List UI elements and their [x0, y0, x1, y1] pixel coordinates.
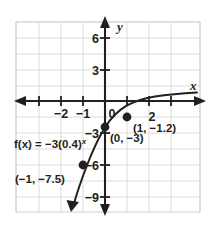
function-equation-exponent: x: [81, 137, 87, 146]
data-point-0: [101, 123, 110, 132]
data-point-1: [123, 113, 132, 122]
x-tick-label-neg2: −2: [54, 107, 68, 121]
exponential-function-graph: y x 6 3 −3 −6 −9 −2 −1 0 2 (−1, −7.5) (0…: [0, 0, 216, 227]
data-point-neg1: [79, 161, 88, 170]
y-tick-label-3: 3: [92, 64, 99, 78]
function-equation-text: f(x) = −3(0.4): [14, 138, 82, 150]
y-tick-label-neg3: −3: [85, 127, 99, 141]
point-label-neg1: (−1, −7.5): [15, 173, 65, 185]
coordinate-plane-svg: y x 6 3 −3 −6 −9 −2 −1 0 2 (−1, −7.5) (0…: [0, 0, 216, 227]
function-equation-label: f(x) = −3(0.4)x: [14, 137, 87, 150]
x-axis-label: x: [189, 78, 197, 93]
point-label-1: (1, −1.2): [133, 122, 176, 134]
y-tick-label-neg9: −9: [85, 191, 99, 205]
y-tick-label-6: 6: [92, 32, 99, 46]
x-tick-label-neg1: −1: [76, 107, 90, 121]
y-axis-label: y: [115, 19, 123, 34]
